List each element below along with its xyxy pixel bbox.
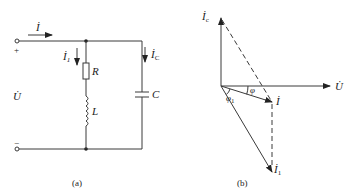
caption-b: (b): [237, 178, 248, 188]
figure: + − İ İ1 İC R L C U̇ (a): [0, 0, 352, 193]
plus-sign: +: [14, 45, 19, 55]
circuit-diagram: + − İ İ1 İC R L C U̇ (a): [13, 21, 160, 188]
label-capacitor: C: [152, 88, 160, 100]
label-i1: İ1: [273, 163, 282, 177]
inductor: [86, 96, 88, 126]
label-ic: İc: [201, 10, 209, 24]
caption-a: (a): [72, 178, 82, 188]
phasor-diagram: İc U̇ İ İ1 φ φ1 (b): [201, 10, 344, 188]
label-u: U̇: [335, 80, 344, 92]
label-i: İ: [275, 95, 281, 107]
label-resistor: R: [91, 65, 99, 77]
label-voltage: U̇: [13, 90, 22, 102]
label-phi: φ: [250, 85, 255, 95]
label-inductor: L: [91, 105, 98, 117]
label-branch1-current: İ1: [62, 50, 70, 64]
angle-phi-arc: [247, 86, 248, 94]
label-phi1: φ1: [226, 93, 235, 105]
terminal-top: [15, 39, 19, 43]
label-cap-current: İC: [150, 48, 160, 62]
minus-sign: −: [14, 138, 19, 148]
label-total-current: İ: [35, 21, 41, 33]
resistor: [83, 63, 89, 79]
